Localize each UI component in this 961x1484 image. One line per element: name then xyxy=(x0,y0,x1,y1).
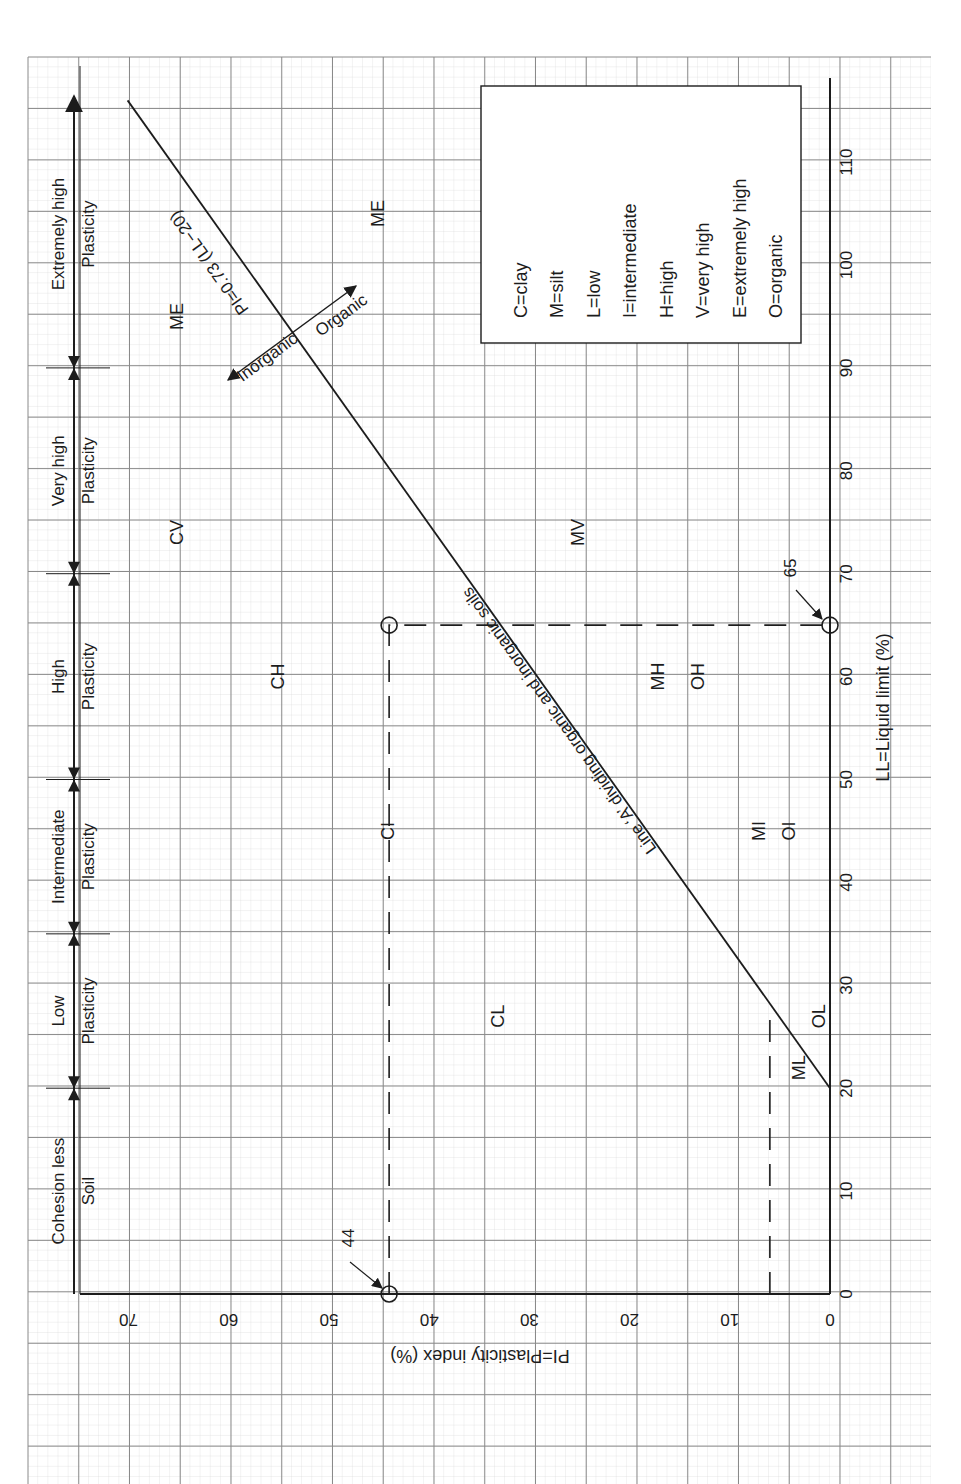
ll-tick-label: 90 xyxy=(837,358,856,377)
zone-name-label: Cohesion less xyxy=(49,1138,68,1245)
plasticity-chart: 0102030405060708090100110LL=Liquid limit… xyxy=(0,0,961,1484)
pi-tick-label: 20 xyxy=(620,1310,639,1329)
marker-65-label: 65 xyxy=(781,559,800,578)
pi-tick-label: 50 xyxy=(320,1310,339,1329)
ll-tick-label: 40 xyxy=(837,873,856,892)
soil-group-label: CL xyxy=(488,1005,508,1028)
ll-tick-label: 70 xyxy=(837,564,856,583)
zone-name-label: Low xyxy=(49,995,68,1027)
ll-tick-label: 80 xyxy=(837,461,856,480)
legend-entry: I=intermediate xyxy=(620,203,640,318)
soil-group-label: MH xyxy=(648,663,668,691)
ll-tick-label: 0 xyxy=(837,1289,856,1298)
y-axis-title: PI=Plasticity index (%) xyxy=(390,1346,570,1366)
marker-44-label: 44 xyxy=(339,1229,358,1248)
ll-tick-label: 20 xyxy=(837,1079,856,1098)
soil-group-label: OI xyxy=(779,821,799,840)
pi-tick-label: 40 xyxy=(420,1310,439,1329)
zone-name-label: High xyxy=(49,659,68,694)
legend-entry: L=low xyxy=(584,269,604,318)
zone-sub-label: Plasticity xyxy=(79,643,98,711)
legend-entry: M=silt xyxy=(547,270,567,318)
soil-group-label: ME xyxy=(167,303,187,330)
soil-group-label: MV xyxy=(568,519,588,546)
soil-group-label: CV xyxy=(167,520,187,545)
zone-name-label: Extremely high xyxy=(49,178,68,290)
zone-sub-label: Soil xyxy=(79,1177,98,1205)
ll-tick-label: 60 xyxy=(837,667,856,686)
soil-group-label: OL xyxy=(809,1004,829,1028)
soil-group-label: CI xyxy=(378,822,398,840)
ll-tick-label: 110 xyxy=(837,149,856,176)
zone-name-label: Intermediate xyxy=(49,809,68,904)
ll-tick-label: 30 xyxy=(837,976,856,995)
legend-entry: V=very high xyxy=(693,222,713,318)
ll-tick-label: 50 xyxy=(837,770,856,789)
legend: C=clayM=siltL=lowI=intermediateH=highV=v… xyxy=(481,86,801,343)
legend-entry: H=high xyxy=(657,260,677,318)
pi-tick-label: 70 xyxy=(119,1310,138,1329)
ll-tick-label: 100 xyxy=(837,251,856,279)
zone-sub-label: Plasticity xyxy=(79,977,98,1045)
zone-name-label: Very high xyxy=(49,435,68,506)
pi-tick-label: 60 xyxy=(219,1310,238,1329)
zone-sub-label: Plasticity xyxy=(79,823,98,891)
pi-tick-label: 10 xyxy=(720,1310,739,1329)
soil-group-label: CH xyxy=(268,664,288,690)
zone-sub-label: Plasticity xyxy=(79,200,98,268)
soil-group-label: MI xyxy=(749,821,769,841)
pi-tick-label: 0 xyxy=(825,1310,834,1329)
legend-entry: E=extremely high xyxy=(730,178,750,318)
soil-group-label: ME xyxy=(368,200,388,227)
legend-entry: O=organic xyxy=(766,234,786,318)
soil-group-label: ML xyxy=(789,1055,809,1080)
soil-group-label: OH xyxy=(688,663,708,690)
zone-sub-label: Plasticity xyxy=(79,437,98,505)
pi-tick-label: 30 xyxy=(520,1310,539,1329)
x-axis-title: LL=Liquid limit (%) xyxy=(873,633,893,782)
legend-entry: C=clay xyxy=(511,262,531,318)
ll-tick-label: 10 xyxy=(837,1182,856,1201)
